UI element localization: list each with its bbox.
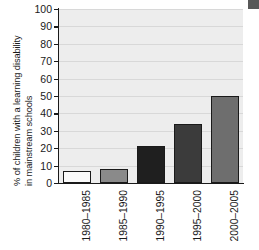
y-tick-label: 100 <box>34 4 52 15</box>
y-tick-mark <box>54 131 59 132</box>
bar-1985–1990 <box>100 169 128 183</box>
y-tick-mark <box>54 166 59 167</box>
y-tick-label: 50 <box>40 91 52 102</box>
x-axis-ticks: 1980–19851985–19901990–19951995–20002000… <box>59 186 243 250</box>
gridline <box>59 26 243 27</box>
y-tick-mark <box>54 113 59 114</box>
gridline <box>59 44 243 45</box>
x-tick-label: 1990–1995 <box>156 190 166 242</box>
y-tick-mark <box>54 44 59 45</box>
corner-marker <box>248 0 259 9</box>
y-axis-title-line-2: in mainstream schools <box>24 96 36 186</box>
y-tick-label: 80 <box>40 39 52 50</box>
y-tick-mark <box>54 96 59 97</box>
y-axis-title: % of children with a learning disability… <box>0 0 34 190</box>
bar-2000–2005 <box>211 96 239 183</box>
y-tick-mark <box>54 183 59 184</box>
y-tick-label: 60 <box>40 74 52 85</box>
bar-1980–1985 <box>63 171 91 183</box>
x-tick-label: 2000–2005 <box>230 190 240 242</box>
y-tick-label: 40 <box>40 108 52 119</box>
y-tick-label: 30 <box>40 126 52 137</box>
bar-1990–1995 <box>137 146 165 183</box>
y-tick-mark <box>54 148 59 149</box>
y-tick-label: 90 <box>40 21 52 32</box>
x-tick-label: 1985–1990 <box>119 190 129 242</box>
bar-chart: % of children with a learning disability… <box>0 0 259 250</box>
gridline <box>59 9 243 10</box>
y-tick-mark <box>54 9 59 10</box>
gridline <box>59 61 243 62</box>
y-tick-label: 70 <box>40 56 52 67</box>
y-tick-label: 20 <box>40 143 52 154</box>
y-tick-label: 0 <box>46 178 52 189</box>
y-tick-mark <box>54 79 59 80</box>
x-tick-label: 1995–2000 <box>193 190 203 242</box>
y-axis-title-line-1: % of children with a learning disability <box>12 35 24 186</box>
y-tick-mark <box>54 26 59 27</box>
x-tick-label: 1980–1985 <box>82 190 92 242</box>
plot-area <box>59 9 243 183</box>
gridline <box>59 79 243 80</box>
bar-1995–2000 <box>174 124 202 183</box>
x-axis-line <box>58 183 244 184</box>
y-tick-label: 10 <box>40 161 52 172</box>
y-tick-mark <box>54 61 59 62</box>
